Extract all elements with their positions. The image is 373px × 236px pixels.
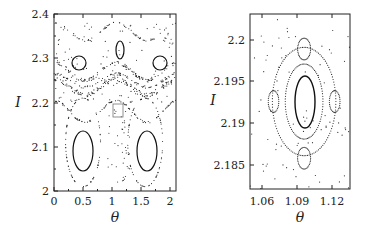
- left-y-axis-label: I: [14, 94, 21, 110]
- left-xtick-label: 2: [167, 195, 174, 208]
- inset-box: [113, 104, 123, 117]
- left-xtick-label: 0.5: [74, 195, 92, 208]
- right-y-axis-label: I: [209, 92, 216, 108]
- left-xtick-label: 1: [109, 195, 116, 208]
- right-plot: 2.2 2.195 2.19 2.185 1.06 1.09 1.12 θ I: [209, 14, 350, 225]
- left-islands: [72, 41, 167, 171]
- right-ytick-label: 2.185: [214, 159, 246, 172]
- left-axes-frame: [54, 14, 176, 191]
- left-scatter-points: [54, 22, 176, 187]
- left-ytick-label: 2: [42, 185, 49, 198]
- left-x-axis-label: θ: [111, 209, 120, 225]
- right-xtick-label: 1.06: [250, 195, 275, 208]
- right-islands: [295, 76, 315, 128]
- left-ytick-label: 2.1: [32, 141, 50, 154]
- left-ytick-label: 2.2: [32, 97, 50, 110]
- left-y-ticks: [54, 14, 58, 191]
- right-ytick-label: 2.19: [221, 117, 246, 130]
- right-ytick-label: 2.2: [228, 34, 246, 47]
- right-y-ticks: [250, 40, 254, 165]
- figure: 2 2.1 2.2 2.3 2.4 0 0.5 1 1.5 2 θ I: [0, 0, 373, 236]
- left-plot: 2 2.1 2.2 2.3 2.4 0 0.5 1 1.5 2 θ I: [14, 8, 176, 225]
- right-scatter-points: [250, 19, 350, 189]
- right-xtick-label: 1.09: [285, 195, 310, 208]
- left-ytick-label: 2.4: [32, 8, 50, 21]
- right-ytick-label: 2.195: [214, 75, 246, 88]
- left-xtick-label: 0: [51, 195, 58, 208]
- right-xtick-label: 1.12: [320, 195, 345, 208]
- left-xtick-label: 1.5: [132, 195, 150, 208]
- right-x-axis-label: θ: [296, 209, 305, 225]
- left-ytick-label: 2.3: [32, 52, 50, 65]
